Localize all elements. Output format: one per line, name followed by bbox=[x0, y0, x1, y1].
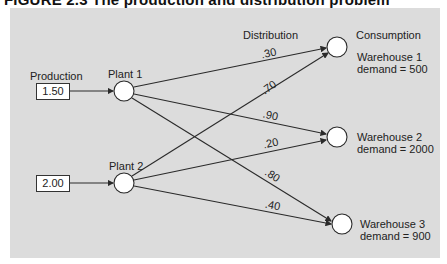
warehouse-3-demand: demand = 900 bbox=[360, 230, 431, 242]
warehouse-3-node bbox=[332, 214, 352, 234]
edge-p2-w2 bbox=[134, 140, 326, 180]
production-value-plant-1: 1.50 bbox=[36, 83, 70, 100]
edge-p1-w1 bbox=[134, 48, 326, 87]
edge-p2-w3 bbox=[134, 186, 331, 224]
plant-2-label: Plant 2 bbox=[109, 160, 143, 172]
warehouse-1-node bbox=[327, 37, 347, 57]
consumption-header: Consumption bbox=[356, 29, 421, 41]
production-value-plant-2: 2.00 bbox=[36, 175, 70, 192]
production-header: Production bbox=[30, 70, 83, 82]
warehouse-2-demand: demand = 2000 bbox=[357, 143, 434, 155]
warehouse-1-label: Warehouse 1 bbox=[357, 51, 422, 63]
warehouse-1-demand: demand = 500 bbox=[357, 63, 428, 75]
warehouse-2-node bbox=[327, 127, 347, 147]
plant-1-node bbox=[114, 81, 134, 101]
distribution-header: Distribution bbox=[243, 29, 298, 41]
warehouse-3-label: Warehouse 3 bbox=[360, 218, 425, 230]
plant-2-node bbox=[114, 173, 134, 193]
warehouse-2-label: Warehouse 2 bbox=[357, 131, 422, 143]
plant-1-label: Plant 1 bbox=[108, 68, 142, 80]
edge-p2-w1 bbox=[132, 53, 328, 176]
